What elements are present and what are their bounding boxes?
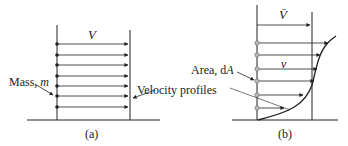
- area-element-circle: [255, 106, 259, 110]
- area-symbol: A: [226, 63, 233, 77]
- mass-symbol: m: [40, 75, 49, 89]
- velocity-label-a: V: [88, 28, 96, 41]
- mass-dot: [55, 105, 59, 109]
- caption-a: (a): [85, 128, 98, 140]
- area-element-circle: [255, 41, 259, 45]
- mass-label-text: Mass,: [9, 75, 40, 89]
- velocity-profile-diagram: [0, 0, 348, 146]
- mass-dot: [55, 94, 59, 98]
- mass-dot: [55, 84, 59, 88]
- mass-dot: [55, 53, 59, 57]
- area-element-circle: [255, 53, 259, 57]
- area-pointer-arrow: [237, 72, 254, 80]
- mean-velocity-label: V̄: [279, 8, 287, 21]
- area-element-circle: [255, 67, 259, 71]
- mass-dot: [55, 74, 59, 78]
- area-element-circle: [255, 93, 259, 97]
- velocity-profiles-label: Velocity profiles: [137, 84, 217, 96]
- profile-velocity-arrows: [255, 25, 328, 110]
- mass-dot: [55, 63, 59, 67]
- mass-label: Mass, m: [9, 76, 49, 88]
- area-label-text: Area, d: [191, 63, 226, 77]
- velocity-profile-curve: [258, 36, 336, 120]
- mass-dot: [55, 42, 59, 46]
- uniform-velocity-arrows: [55, 42, 128, 109]
- caption-b: (b): [278, 128, 292, 140]
- area-label: Area, dA: [191, 64, 234, 76]
- velocity-profiles-pointer-line: [230, 88, 290, 110]
- area-element-circle: [255, 79, 259, 83]
- local-velocity-label: v: [281, 58, 286, 70]
